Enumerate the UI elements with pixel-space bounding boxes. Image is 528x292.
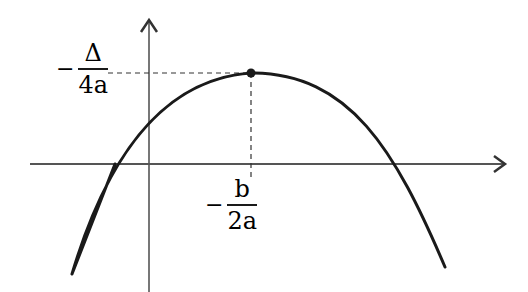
- fraction-bar: [78, 68, 108, 70]
- numerator: b: [235, 176, 250, 202]
- fraction: b 2a: [227, 176, 257, 234]
- minus-sign: −: [205, 194, 223, 216]
- denominator: 2a: [227, 208, 257, 234]
- denominator: 4a: [78, 72, 108, 98]
- fraction-bar: [227, 204, 257, 206]
- x-vertex-label: − b 2a: [205, 176, 257, 234]
- minus-sign: −: [56, 58, 74, 80]
- numerator: Δ: [85, 40, 102, 66]
- y-vertex-label: − Δ 4a: [56, 40, 108, 98]
- parabola-curve: [72, 73, 445, 274]
- vertex-point: [247, 69, 256, 78]
- fraction: Δ 4a: [78, 40, 108, 98]
